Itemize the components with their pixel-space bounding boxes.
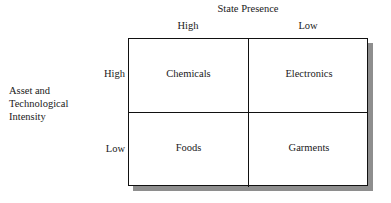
column-header-high: High bbox=[128, 20, 248, 32]
matrix-cell-high-low: Electronics bbox=[249, 39, 369, 112]
matrix-cell-label-chemicals: Chemicals bbox=[129, 68, 248, 80]
matrix-cell-label-garments: Garments bbox=[249, 142, 369, 154]
matrix-cell-low-high: Foods bbox=[129, 113, 249, 187]
column-axis-title: State Presence bbox=[128, 3, 368, 15]
row-axis-title-line-2: Technological bbox=[9, 97, 109, 110]
row-axis-title-line-3: Intensity bbox=[9, 110, 109, 123]
matrix-cell-label-electronics: Electronics bbox=[249, 68, 369, 80]
row-axis-title: Asset and Technological Intensity bbox=[9, 84, 109, 123]
row-header-low: Low bbox=[65, 143, 125, 155]
matrix-cell-label-foods: Foods bbox=[129, 142, 248, 154]
matrix-cell-low-low: Garments bbox=[249, 113, 369, 187]
matrix-cell-high-high: Chemicals bbox=[129, 39, 249, 112]
row-header-high: High bbox=[65, 68, 125, 80]
matrix-row-low: Foods Garments bbox=[129, 113, 367, 187]
row-axis-title-line-1: Asset and bbox=[9, 84, 109, 97]
matrix-row-high: Chemicals Electronics bbox=[129, 39, 367, 113]
column-header-low: Low bbox=[248, 20, 368, 32]
two-by-two-matrix: Chemicals Electronics Foods Garments bbox=[128, 38, 368, 186]
